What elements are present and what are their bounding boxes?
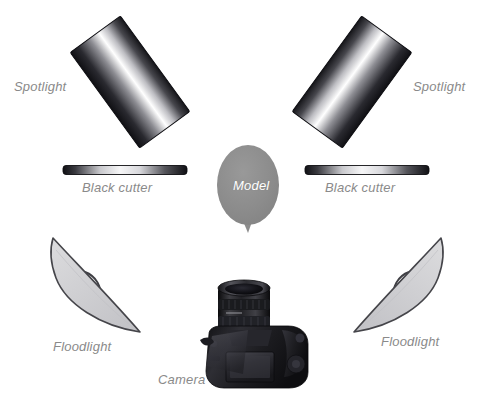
label-camera: Camera [158,372,205,387]
camera[interactable] [200,280,308,388]
black-cutter-left-bar [63,166,187,175]
camera-zoom-ring [218,299,270,310]
spotlight-right-panel [292,16,412,148]
floodlight-right-dish [354,238,443,332]
label-spotlight-left: Spotlight [14,79,66,94]
floodlight-left-dish [51,238,140,332]
camera-lens-glass [225,284,263,295]
spotlight-left-panel [70,16,190,148]
camera-mode-dial-center [292,360,300,368]
spotlight-left[interactable] [70,16,190,148]
black-cutter-right-bar [305,166,429,175]
spotlight-right[interactable] [292,16,412,148]
floodlight-left[interactable] [51,238,140,332]
black-cutter-left[interactable] [63,166,187,175]
label-spotlight-right: Spotlight [413,79,465,94]
label-floodlight-left: Floodlight [53,339,111,354]
label-black-cutter-left: Black cutter [82,180,152,195]
black-cutter-right[interactable] [305,166,429,175]
camera-lens-marking [226,312,242,314]
lighting-setup-diagram: Spotlight Spotlight Black cutter Black c… [0,0,490,418]
floodlight-right[interactable] [354,238,443,332]
camera-shutter-button [296,334,305,343]
label-model: Model [233,178,269,193]
label-black-cutter-right: Black cutter [325,180,395,195]
label-floodlight-right: Floodlight [381,334,439,349]
diagram-canvas [0,0,490,418]
